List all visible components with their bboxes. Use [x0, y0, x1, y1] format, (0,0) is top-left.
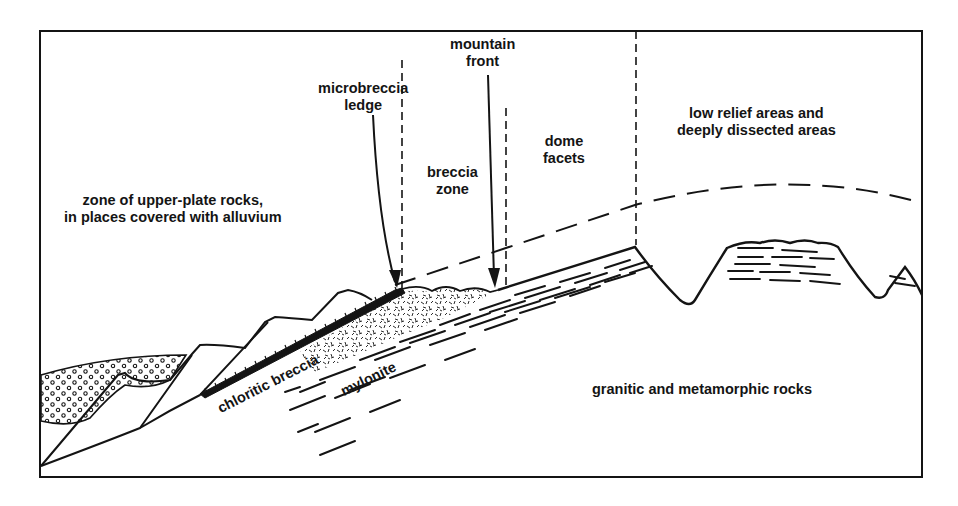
geologic-cross-section [0, 0, 958, 506]
microbreccia-arrow [373, 115, 395, 282]
label-granitic-metamorphic: granitic and metamorphic rocks [592, 381, 812, 398]
zone-dividers [402, 31, 636, 289]
reconstructed-arch [395, 184, 922, 285]
label-microbreccia-ledge: microbreccia ledge [318, 80, 408, 114]
label-low-relief: low relief areas and deeply dissected ar… [677, 105, 836, 139]
label-mountain-front: mountain front [450, 36, 515, 70]
label-breccia-zone: breccia zone [427, 164, 478, 198]
label-upper-plate: zone of upper-plate rocks, in places cov… [64, 192, 282, 226]
dome-surface [498, 241, 922, 305]
mountain-front-arrow [488, 75, 494, 277]
label-dome-facets: dome facets [543, 133, 585, 167]
microbreccia-arrowhead [389, 270, 401, 288]
mountain-front-arrowhead [488, 268, 500, 288]
